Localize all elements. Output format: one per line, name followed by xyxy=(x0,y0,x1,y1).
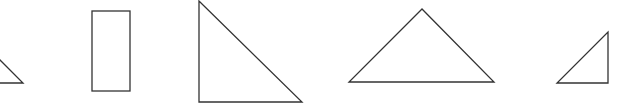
partial-triangle-shape xyxy=(0,58,23,83)
shapes-canvas xyxy=(0,0,636,107)
right-triangle-large-shape xyxy=(199,1,302,102)
obtuse-triangle-shape xyxy=(349,9,494,82)
right-triangle-small-shape xyxy=(557,32,608,83)
rectangle-shape xyxy=(92,11,130,91)
